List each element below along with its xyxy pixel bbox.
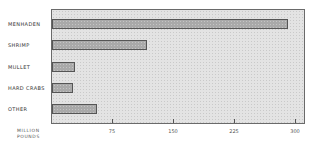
x-tick-label: 225 — [229, 128, 239, 134]
bar-mullet — [52, 62, 75, 72]
x-tick-label: 75 — [109, 128, 115, 134]
x-tick — [112, 119, 113, 123]
x-tick — [234, 119, 235, 123]
plot-area — [51, 9, 305, 124]
x-tick-label: 300 — [290, 128, 300, 134]
bar-shrimp — [52, 40, 147, 50]
category-label: HARD CRABS — [8, 85, 45, 91]
x-axis-label: MILLION POUNDS — [17, 128, 40, 140]
bar-hard-crabs — [52, 83, 73, 93]
x-tick-label: 150 — [168, 128, 178, 134]
category-label: MULLET — [8, 64, 30, 70]
x-axis-label-line-2: POUNDS — [17, 134, 40, 140]
bar-menhaden — [52, 19, 288, 29]
category-label: MENHADEN — [8, 21, 40, 27]
category-label: SHRIMP — [8, 42, 30, 48]
category-label: OTHER — [8, 106, 27, 112]
x-tick — [295, 119, 296, 123]
bar-other — [52, 104, 97, 114]
x-tick — [173, 119, 174, 123]
